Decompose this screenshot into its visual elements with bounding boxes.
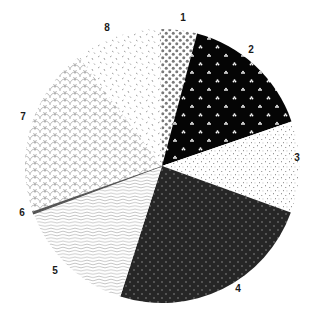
slice-label-2: 2 — [248, 44, 254, 55]
slice-label-6: 6 — [19, 207, 25, 218]
slice-label-1: 1 — [180, 12, 186, 23]
slice-label-8: 8 — [104, 22, 110, 33]
pie-chart: 12345678 — [0, 0, 319, 321]
slice-label-4: 4 — [235, 283, 241, 294]
pie-slices — [25, 29, 299, 303]
slice-label-5: 5 — [52, 265, 58, 276]
slice-label-7: 7 — [20, 111, 26, 122]
slice-label-3: 3 — [294, 152, 300, 163]
